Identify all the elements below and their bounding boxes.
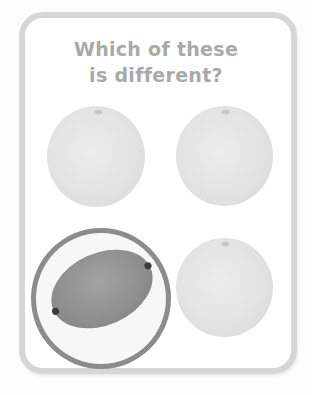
grapefruit-top-right[interactable]	[176, 106, 273, 206]
question-line-1: Which of these	[0, 36, 312, 62]
question-line-2: is different?	[0, 62, 312, 88]
question-title: Which of these is different?	[0, 36, 312, 88]
stem-icon	[221, 109, 230, 115]
grapefruit-bottom-right[interactable]	[176, 238, 273, 337]
stem-icon	[221, 241, 230, 247]
grapefruit-top-left[interactable]	[47, 106, 145, 207]
stem-icon	[94, 109, 103, 115]
